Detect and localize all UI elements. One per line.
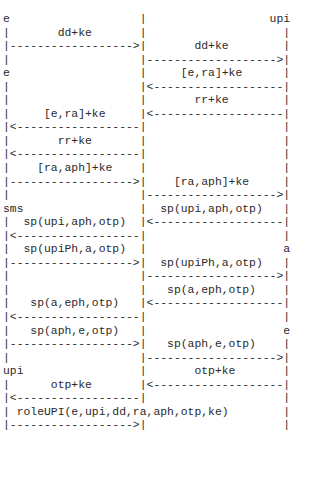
diagram-line: | rr+ke | | [3, 135, 290, 149]
diagram-line: | |------------------->| [3, 270, 290, 284]
ascii-sequence-diagram: e | upi| dd+ke | ||------------------>| … [3, 13, 290, 433]
diagram-line: | | sp(a,eph,otp) | [3, 284, 290, 298]
diagram-line: | sp(a,eph,otp) |<-------------------| [3, 297, 290, 311]
diagram-line: |------------------>| sp(aph,e,otp) | [3, 338, 290, 352]
diagram-line: | dd+ke | | [3, 27, 290, 41]
diagram-line: |------------------>| | [3, 419, 290, 433]
diagram-line: |<------------------| | [3, 311, 290, 325]
diagram-line: | sp(upiPh,a,otp) | a [3, 243, 290, 257]
diagram-line: | roleUPI(e,upi,dd,ra,aph,otp,ke) | [3, 406, 290, 420]
diagram-line: |------------------>| sp(upiPh,a,otp) | [3, 257, 290, 271]
diagram-line: | sp(upi,aph,otp) |<-------------------| [3, 216, 290, 230]
diagram-line: | [ra,aph]+ke | | [3, 162, 290, 176]
diagram-line: | | rr+ke | [3, 94, 290, 108]
diagram-line: |<------------------| | [3, 392, 290, 406]
diagram-line: upi | otp+ke | [3, 365, 290, 379]
diagram-line: |------------------>| dd+ke | [3, 40, 290, 54]
diagram-line: | |<-------------------| [3, 81, 290, 95]
diagram-line: | [e,ra]+ke |<-------------------| [3, 108, 290, 122]
diagram-line: | otp+ke |<-------------------| [3, 379, 290, 393]
diagram-line: sms | sp(upi,aph,otp) | [3, 203, 290, 217]
diagram-line: |------------------>| [ra,aph]+ke | [3, 176, 290, 190]
diagram-line: |<------------------| | [3, 148, 290, 162]
diagram-line: | |------------------->| [3, 352, 290, 366]
diagram-line: e | upi [3, 13, 290, 27]
diagram-line: e | [e,ra]+ke | [3, 67, 290, 81]
diagram-line: |<------------------| | [3, 230, 290, 244]
diagram-line: |<------------------| | [3, 121, 290, 135]
diagram-line: | |------------------->| [3, 189, 290, 203]
diagram-line: | sp(aph,e,otp) | e [3, 325, 290, 339]
diagram-line: | |------------------->| [3, 54, 290, 68]
